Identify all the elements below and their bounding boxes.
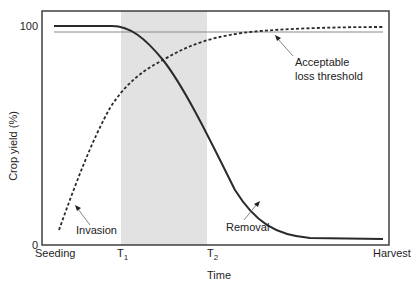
invasion-arrowhead-icon (75, 205, 81, 211)
x-tick-t2: T2 (207, 247, 219, 262)
x-tick-t1-sub: 1 (124, 253, 129, 262)
plot-frame (42, 11, 389, 245)
critical-period-shade (121, 11, 207, 245)
threshold-arrow-line (277, 38, 293, 56)
y-axis-label: Crop yield (%) (7, 111, 19, 181)
invasion-arrow-line (78, 209, 90, 225)
x-tick-t2-sub: 2 (214, 253, 219, 262)
x-tick-harvest: Harvest (373, 247, 411, 259)
x-tick-t1: T1 (117, 247, 129, 262)
x-axis-label: Time (207, 269, 231, 281)
x-tick-seeding: Seeding (35, 247, 75, 259)
annotation-invasion: Invasion (76, 224, 117, 236)
annotation-threshold-line1: Acceptable (295, 56, 349, 68)
y-tick-100: 100 (20, 20, 38, 32)
annotation-removal: Removal (226, 221, 269, 233)
chart: 100 0 Crop yield (%) Seeding T1 T2 Harve… (0, 0, 417, 292)
threshold-arrowhead-icon (275, 35, 281, 41)
annotation-threshold-line2: loss threshold (295, 70, 363, 82)
